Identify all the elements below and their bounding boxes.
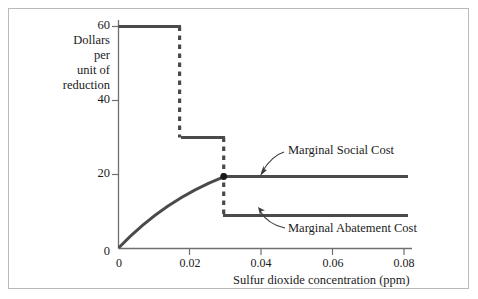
msc-arrowhead (260, 166, 267, 177)
y-axis-caption-line-2: per (20, 48, 110, 63)
intersection-point-marker (220, 173, 227, 180)
x-tick-label-002: 0.02 (170, 256, 210, 270)
annotation-marginal-social-cost: Marginal Social Cost (288, 143, 394, 158)
y-tick-label-60: 60 (70, 18, 110, 33)
annotation-arrowheads (258, 166, 267, 216)
x-tick-label-004: 0.04 (241, 256, 281, 270)
chart-screenshot: 60 40 20 0 Dollars per unit of reduction… (0, 0, 478, 299)
x-tick-label-0: 0 (99, 256, 139, 270)
y-axis-ticks (112, 27, 119, 175)
msc-leader-line (262, 152, 284, 172)
x-axis-title: Sulfur dioxide concentration (ppm) (233, 273, 410, 288)
x-tick-label-008: 0.08 (384, 256, 424, 270)
y-axis-caption-line-3: unit of (20, 63, 110, 78)
x-axis-ticks (190, 249, 405, 256)
mac-rising-curve (120, 177, 224, 247)
y-axis-caption-line-4: reduction (20, 78, 110, 93)
mac-leader-line (260, 211, 285, 228)
y-tick-label-20: 20 (70, 166, 110, 181)
x-tick-label-006: 0.06 (313, 256, 353, 270)
annotation-marginal-abatement-cost: Marginal Abatement Cost (288, 221, 417, 236)
y-tick-label-40: 40 (70, 92, 110, 107)
y-axis-caption-line-1: Dollars (20, 33, 110, 48)
series-marginal-abatement-cost (120, 177, 409, 247)
